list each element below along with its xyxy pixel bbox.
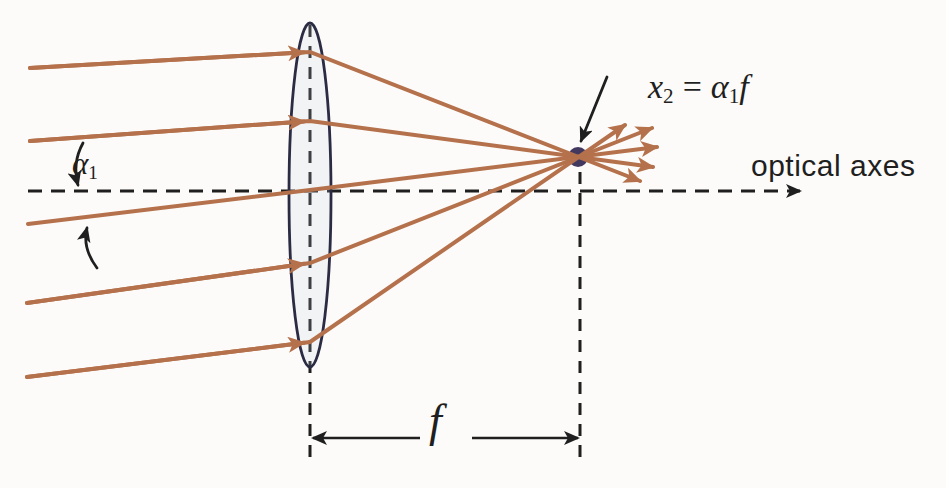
ray-3	[28, 147, 657, 224]
ray-4-entry-arrow	[27, 264, 304, 303]
focus-height-formula-label: x2=α1f	[648, 70, 749, 107]
formula-x: x	[648, 68, 663, 105]
lens	[289, 23, 331, 367]
formula-x-subscript: 2	[663, 84, 674, 108]
angle-symbol: α	[72, 146, 88, 181]
optical-axis-label: optical axes	[751, 151, 915, 181]
angle-alpha1-label: α1	[72, 148, 98, 182]
angle-arrow-to-ray	[86, 228, 97, 268]
ray-5-entry-arrow	[27, 343, 304, 377]
formula-alpha-subscript: 1	[729, 84, 740, 108]
focal-point-pointer-arrow	[581, 77, 607, 141]
formula-alpha: α	[711, 68, 729, 105]
focal-length-label: f	[429, 398, 442, 444]
lens-focusing-diagram: α1 x2=α1f optical axes f	[0, 0, 946, 488]
formula-equals: =	[683, 68, 702, 105]
angle-subscript: 1	[88, 162, 98, 183]
ray-2-entry-arrow	[30, 121, 304, 141]
ray-1-entry-arrow	[30, 52, 304, 68]
diagram-canvas	[0, 0, 946, 488]
formula-f: f	[739, 68, 748, 105]
